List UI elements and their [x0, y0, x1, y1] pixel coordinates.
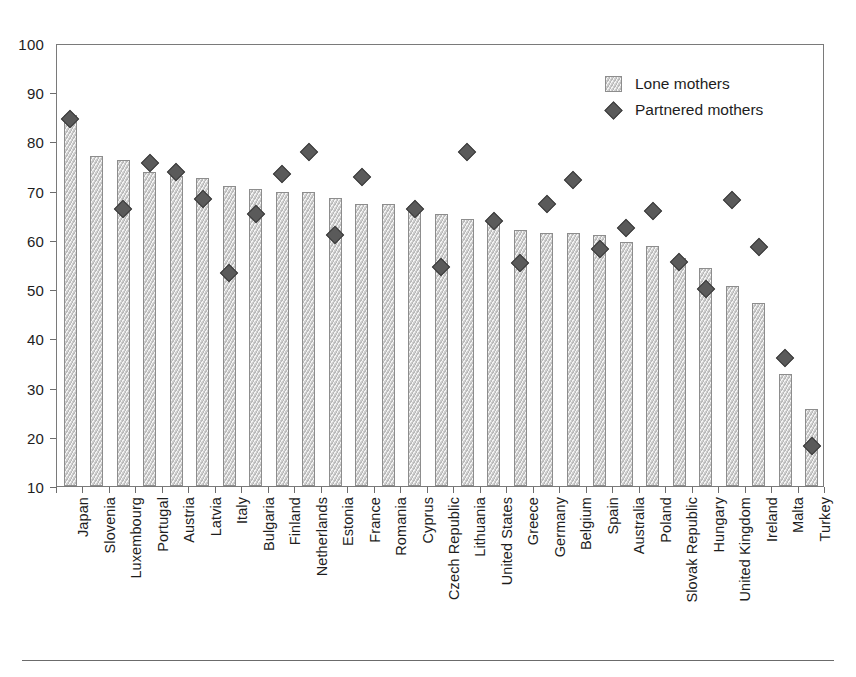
- bar-lone-mothers: [249, 189, 262, 486]
- x-axis-label: Japan: [75, 497, 91, 537]
- x-tick-mark: [718, 487, 719, 493]
- x-axis-label: Netherlands: [314, 497, 330, 576]
- x-tick-mark: [400, 487, 401, 493]
- x-tick-mark: [745, 487, 746, 493]
- x-tick-mark: [824, 487, 825, 493]
- x-axis-label: Italy: [234, 497, 250, 524]
- x-tick-mark: [559, 487, 560, 493]
- legend-label-lone-mothers: Lone mothers: [635, 75, 730, 93]
- x-axis-label: United Kingdom: [737, 497, 753, 602]
- bar-lone-mothers: [196, 178, 209, 486]
- x-tick-mark: [480, 487, 481, 493]
- marker-partnered-mothers: [644, 202, 662, 220]
- x-tick-mark: [798, 487, 799, 493]
- footer-rule: [22, 660, 834, 661]
- x-tick-mark: [665, 487, 666, 493]
- x-axis-label: Ireland: [764, 497, 780, 542]
- x-tick-mark: [162, 487, 163, 493]
- legend-diamond-icon: [604, 101, 622, 119]
- bar-lone-mothers: [223, 186, 236, 486]
- x-axis-label: Cyprus: [420, 497, 436, 544]
- bar-lone-mothers: [540, 233, 553, 486]
- bar-lone-mothers: [90, 156, 103, 486]
- x-tick-mark: [135, 487, 136, 493]
- x-tick-mark: [506, 487, 507, 493]
- bar-lone-mothers: [382, 204, 395, 486]
- bar-lone-mothers: [435, 214, 448, 486]
- x-axis-label: Estonia: [340, 497, 356, 546]
- x-axis-label: Hungary: [711, 497, 727, 553]
- marker-partnered-mothers: [352, 168, 370, 186]
- x-tick-mark: [612, 487, 613, 493]
- x-tick-mark: [692, 487, 693, 493]
- x-axis-label: Belgium: [578, 497, 594, 550]
- marker-partnered-mothers: [458, 143, 476, 161]
- y-tick-label: 80: [27, 134, 44, 151]
- legend-square-icon: [605, 76, 622, 92]
- x-tick-mark: [427, 487, 428, 493]
- x-tick-mark: [771, 487, 772, 493]
- marker-partnered-mothers: [140, 154, 158, 172]
- x-tick-mark: [347, 487, 348, 493]
- bar-lone-mothers: [355, 204, 368, 486]
- x-axis-label: Spain: [605, 497, 621, 535]
- bar-lone-mothers: [673, 258, 686, 486]
- x-axis-label: Slovak Republic: [684, 497, 700, 602]
- y-tick-label: 40: [27, 331, 44, 348]
- chart-legend: Lone mothers Partnered mothers: [605, 71, 815, 123]
- x-axis-label: Australia: [631, 497, 647, 554]
- x-axis-label: Portugal: [155, 497, 171, 552]
- x-tick-mark: [188, 487, 189, 493]
- bar-lone-mothers: [726, 286, 739, 486]
- bar-lone-mothers: [646, 246, 659, 486]
- bar-lone-mothers: [408, 206, 421, 486]
- x-axis-label: France: [367, 497, 383, 543]
- x-axis-label: Slovenia: [102, 497, 118, 553]
- x-axis-label: Czech Republic: [446, 497, 462, 600]
- x-axis-label: Latvia: [208, 497, 224, 536]
- x-tick-mark: [109, 487, 110, 493]
- x-tick-mark: [268, 487, 269, 493]
- bar-lone-mothers: [779, 374, 792, 486]
- x-tick-mark: [586, 487, 587, 493]
- x-tick-mark: [321, 487, 322, 493]
- bar-lone-mothers: [567, 233, 580, 486]
- marker-partnered-mothers: [776, 349, 794, 367]
- y-tick-label: 100: [18, 36, 44, 53]
- bar-lone-mothers: [276, 192, 289, 486]
- x-axis-label: Poland: [658, 497, 674, 543]
- bar-lone-mothers: [620, 242, 633, 486]
- x-tick-mark: [639, 487, 640, 493]
- x-axis-label: Germany: [552, 497, 568, 557]
- y-axis: 102030405060708090100: [0, 0, 56, 520]
- bar-lone-mothers: [487, 219, 500, 486]
- chart-figure: 102030405060708090100 Lone mothers Partn…: [0, 0, 856, 677]
- bar-lone-mothers: [461, 219, 474, 486]
- x-tick-mark: [241, 487, 242, 493]
- marker-partnered-mothers: [750, 238, 768, 256]
- marker-partnered-mothers: [538, 195, 556, 213]
- x-tick-mark: [294, 487, 295, 493]
- x-axis-label: Finland: [287, 497, 303, 545]
- marker-partnered-mothers: [273, 165, 291, 183]
- bar-lone-mothers: [64, 115, 77, 486]
- x-tick-mark: [82, 487, 83, 493]
- x-axis-label: Turkey: [817, 497, 833, 541]
- x-axis-label: Lithuania: [472, 497, 488, 557]
- x-axis-label: Malta: [790, 497, 806, 533]
- x-axis-label: Austria: [181, 497, 197, 543]
- x-tick-mark: [533, 487, 534, 493]
- y-tick-label: 50: [27, 282, 44, 299]
- marker-partnered-mothers: [299, 143, 317, 161]
- marker-partnered-mothers: [723, 191, 741, 209]
- y-tick-label: 10: [27, 479, 44, 496]
- x-axis-label: Greece: [525, 497, 541, 545]
- x-tick-mark: [374, 487, 375, 493]
- plot-area: Lone mothers Partnered mothers: [56, 44, 824, 487]
- y-tick-label: 90: [27, 85, 44, 102]
- y-tick-label: 20: [27, 429, 44, 446]
- marker-partnered-mothers: [564, 171, 582, 189]
- y-tick-label: 60: [27, 232, 44, 249]
- y-tick-label: 30: [27, 380, 44, 397]
- legend-item-partnered-mothers: Partnered mothers: [605, 97, 815, 123]
